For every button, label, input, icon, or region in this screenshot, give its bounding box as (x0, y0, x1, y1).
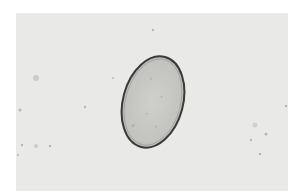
parasite-egg (112, 49, 194, 154)
micrograph-svg (0, 0, 299, 196)
